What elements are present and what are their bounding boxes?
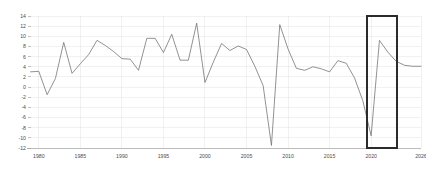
axis-lines bbox=[27, 16, 422, 148]
x-tick-label-2005: 2005 bbox=[241, 153, 253, 159]
gridlines-horizontal bbox=[31, 16, 422, 148]
y-tick-label-10: 10 bbox=[20, 33, 26, 39]
line-chart: 14121086420-2-4-6-8-10-12 19801985199019… bbox=[0, 0, 426, 169]
x-tick-label-2000: 2000 bbox=[199, 153, 211, 159]
x-tick-label-2015: 2015 bbox=[324, 153, 336, 159]
y-tick-label-6: 6 bbox=[23, 54, 26, 60]
y-tick-label--8: -8 bbox=[21, 125, 26, 131]
x-tick-label-1990: 1990 bbox=[116, 153, 128, 159]
y-tick-label--6: -6 bbox=[21, 114, 26, 120]
y-axis-tick-labels: 14121086420-2-4-6-8-10-12 bbox=[19, 13, 27, 151]
y-tick-label-14: 14 bbox=[20, 13, 26, 19]
y-tick-label-8: 8 bbox=[23, 43, 26, 49]
y-tick-label--2: -2 bbox=[21, 94, 26, 100]
series-line-1 bbox=[31, 23, 422, 145]
x-tick-label-2010: 2010 bbox=[282, 153, 294, 159]
y-tick-label-0: 0 bbox=[23, 84, 26, 90]
x-axis-tick-labels: 1980198519901995200020052010201520202026 bbox=[33, 153, 426, 159]
x-tick-label-1980: 1980 bbox=[33, 153, 45, 159]
y-tick-label--10: -10 bbox=[19, 135, 27, 141]
y-tick-label-4: 4 bbox=[23, 64, 26, 70]
x-tick-label-1995: 1995 bbox=[158, 153, 170, 159]
y-tick-label--4: -4 bbox=[21, 104, 26, 110]
x-tick-label-2026: 2026 bbox=[415, 153, 426, 159]
y-tick-label-12: 12 bbox=[20, 23, 26, 29]
series-paths bbox=[31, 23, 422, 145]
x-tick-label-2020: 2020 bbox=[365, 153, 377, 159]
gridlines-vertical bbox=[39, 16, 421, 148]
y-tick-label--12: -12 bbox=[19, 145, 27, 151]
x-tick-label-1985: 1985 bbox=[75, 153, 87, 159]
chart-container: 14121086420-2-4-6-8-10-12 19801985199019… bbox=[0, 0, 426, 169]
y-tick-label-2: 2 bbox=[23, 74, 26, 80]
